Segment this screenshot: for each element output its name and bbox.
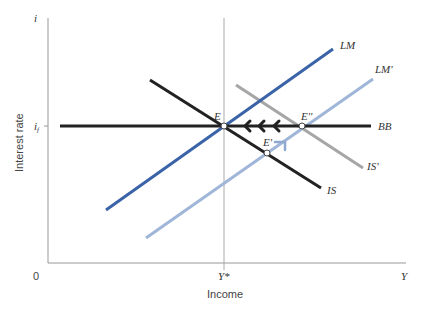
label-i-axis: i (34, 12, 37, 24)
point-e (221, 123, 227, 129)
label-lm: LM (339, 39, 356, 51)
label-lm-prime: LM' (374, 63, 393, 75)
label-if: if (34, 120, 40, 134)
label-is-prime: IS' (366, 160, 379, 172)
label-e-double-prime: E'' (300, 110, 313, 122)
label-bb: BB (378, 120, 392, 132)
label-is: IS (326, 184, 337, 196)
label-origin: 0 (33, 270, 39, 282)
point-e-double-prime (299, 123, 305, 129)
is-lm-bb-diagram: E E'' E' LM LM' BB IS' IS i if 0 Y* Y In… (0, 0, 423, 313)
label-e: E (213, 110, 221, 122)
x-axis-title: Income (207, 288, 243, 300)
label-e-prime: E' (262, 136, 273, 148)
point-e-prime (264, 150, 270, 156)
y-axis-title: Interest rate (13, 113, 25, 172)
label-y-axis-end: Y (401, 270, 409, 282)
label-y-star: Y* (218, 270, 230, 282)
